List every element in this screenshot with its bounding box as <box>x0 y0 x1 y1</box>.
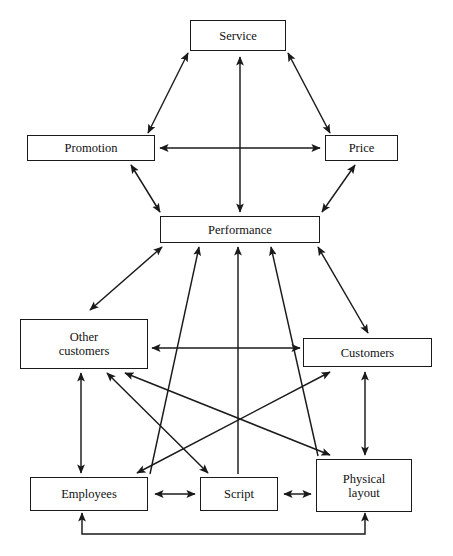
promotion-service-line <box>148 53 188 133</box>
node-label-price: Price <box>346 141 378 155</box>
node-customers: Customers <box>303 338 432 367</box>
customers-employees-line <box>137 372 330 473</box>
node-label-performance: Performance <box>205 223 275 237</box>
node-label-other_customers: Other customers <box>56 330 113 358</box>
othercustomers-physicallayout-line <box>125 373 330 455</box>
node-label-employees: Employees <box>58 487 120 501</box>
othercustomers-script-line <box>107 373 208 473</box>
promotion-performance-line <box>131 165 160 212</box>
othercustomers-performance-line <box>90 247 162 310</box>
node-label-customers: Customers <box>338 346 397 360</box>
node-label-script: Script <box>221 487 257 501</box>
node-label-physical_layout: Physical layout <box>340 472 388 500</box>
node-label-promotion: Promotion <box>62 141 121 155</box>
service-price-line <box>288 53 330 133</box>
node-employees: Employees <box>30 477 148 511</box>
node-promotion: Promotion <box>27 135 155 161</box>
node-other_customers: Other customers <box>20 319 148 369</box>
node-script: Script <box>200 477 278 511</box>
price-performance-line <box>322 165 355 212</box>
node-physical_layout: Physical layout <box>316 459 412 512</box>
node-label-service: Service <box>216 29 259 43</box>
node-service: Service <box>190 20 286 51</box>
relationship-diagram: ServicePromotionPricePerformanceOther cu… <box>0 0 453 556</box>
node-price: Price <box>325 135 398 161</box>
customers-performance-line <box>318 247 368 333</box>
node-performance: Performance <box>160 216 320 243</box>
employees-physicallayout-feedback-loop <box>82 513 365 534</box>
